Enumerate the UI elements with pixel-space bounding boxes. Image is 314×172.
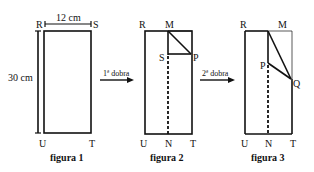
point-s: S xyxy=(159,53,165,63)
arrow-2-label: 2ª dobra xyxy=(202,69,228,79)
point-n: N xyxy=(265,139,272,149)
point-r: R xyxy=(36,20,43,30)
figure-2-caption: figura 2 xyxy=(150,152,184,163)
arrow-1-label: 1ª dobra xyxy=(103,69,129,79)
point-t: T xyxy=(190,139,196,149)
figure-1-shape xyxy=(35,21,91,133)
point-n: N xyxy=(165,139,172,149)
point-t: T xyxy=(89,139,95,149)
point-u: U xyxy=(241,139,248,149)
point-m: M xyxy=(278,20,287,30)
point-r: R xyxy=(139,20,146,30)
figure-3-shape xyxy=(245,31,292,134)
height-label: 30 cm xyxy=(8,73,33,83)
width-label: 12 cm xyxy=(56,13,81,23)
point-u: U xyxy=(39,139,46,149)
point-p: P xyxy=(193,53,199,63)
figure-1-caption: figura 1 xyxy=(50,152,84,163)
figure-3-caption: figura 3 xyxy=(251,152,285,163)
point-m: M xyxy=(165,20,174,30)
point-s: S xyxy=(93,20,99,30)
point-t: T xyxy=(290,139,296,149)
point-r: R xyxy=(240,20,247,30)
figure-2-shape xyxy=(145,31,192,134)
point-p: P xyxy=(260,61,266,71)
point-u: U xyxy=(140,139,147,149)
point-q: Q xyxy=(293,79,300,89)
